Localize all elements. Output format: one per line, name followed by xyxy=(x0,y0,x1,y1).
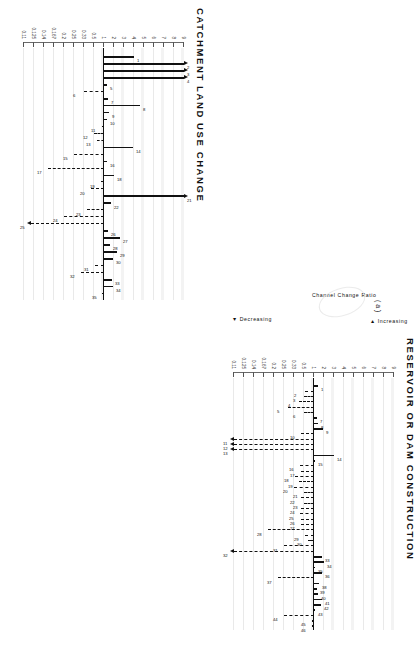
bar-9 xyxy=(314,428,323,430)
bar-10 xyxy=(104,119,107,121)
gridline xyxy=(253,378,254,630)
gridline xyxy=(141,48,144,300)
arrowhead-13 xyxy=(230,447,234,451)
bar-1 xyxy=(104,56,134,58)
axis-tick-label: 6 xyxy=(361,338,366,369)
axis-tick xyxy=(83,42,84,47)
axis-tick-label: 7 xyxy=(371,338,376,369)
axis-tick xyxy=(73,42,74,47)
bar-label-33: 33 xyxy=(115,282,120,286)
bar-41 xyxy=(314,599,322,601)
axis-tick xyxy=(343,372,344,377)
axis-tick xyxy=(63,42,64,47)
bar-14 xyxy=(314,455,334,457)
axis-tick xyxy=(133,42,134,47)
bar-26 xyxy=(301,519,314,520)
bar-44 xyxy=(284,615,314,616)
axis-tick-label: 0.33 xyxy=(81,8,86,39)
axis-tick-label: 8 xyxy=(381,338,386,369)
axis-tick xyxy=(23,42,24,47)
axis-tick xyxy=(313,372,314,377)
gridline xyxy=(343,378,344,630)
bar-13 xyxy=(234,449,314,450)
bar-2 xyxy=(305,391,314,392)
bar-label-18: 18 xyxy=(284,479,289,483)
axis-tick xyxy=(363,372,364,377)
bar-12 xyxy=(94,133,104,134)
bar-25 xyxy=(31,223,104,224)
value-axis xyxy=(24,42,184,43)
axis-tick xyxy=(123,42,124,47)
axis-tick-label: 0.11 xyxy=(231,338,236,369)
bar-label-44: 44 xyxy=(273,618,278,622)
axis-tick xyxy=(233,372,234,377)
bar-label-32: 32 xyxy=(70,275,75,279)
gridline xyxy=(121,48,124,300)
axis-tick-label: 0.167 xyxy=(261,338,266,369)
gridline xyxy=(73,48,74,300)
bar-18 xyxy=(104,175,114,177)
axis-tick xyxy=(373,372,374,377)
bar-13 xyxy=(97,140,104,141)
bar-43 xyxy=(314,609,316,611)
bar-15 xyxy=(314,460,316,462)
axis-tick xyxy=(273,372,274,377)
gridline xyxy=(233,378,234,630)
bar-label-9: 9 xyxy=(326,431,328,435)
axis-tick-label: 0.33 xyxy=(291,338,296,369)
arrowhead-21 xyxy=(184,194,188,198)
bar-5 xyxy=(104,84,107,86)
axis-tick-label: 3 xyxy=(121,8,126,39)
axis-tick-label: 0.125 xyxy=(31,8,36,39)
bar-32 xyxy=(234,551,314,552)
axis-tick xyxy=(143,42,144,47)
axis-tick-label: 0.25 xyxy=(281,338,286,369)
bar-19 xyxy=(101,181,104,182)
bar-38 xyxy=(314,583,319,585)
bar-3 xyxy=(304,396,314,397)
bar-22 xyxy=(301,497,314,498)
gridline xyxy=(303,378,304,630)
axis-caption-increasing: ▲ Increasing xyxy=(370,318,408,324)
bar-label-7: 7 xyxy=(320,420,322,424)
axis-tick xyxy=(153,42,154,47)
bar-label-16: 16 xyxy=(110,164,115,168)
axis-tick-label: 9 xyxy=(181,8,186,39)
bar-label-39: 39 xyxy=(320,591,325,595)
bar-20 xyxy=(91,188,104,189)
bar-label-15: 15 xyxy=(63,157,68,161)
axis-tick xyxy=(323,372,324,377)
bar-10 xyxy=(301,433,314,434)
axis-tick-label: 8 xyxy=(171,8,176,39)
bar-label-37: 37 xyxy=(267,581,272,585)
bar-28 xyxy=(104,244,110,246)
arrowhead-32 xyxy=(230,549,234,553)
axis-tick xyxy=(163,42,164,47)
axis-tick-label: 9 xyxy=(391,338,396,369)
axis-tick xyxy=(93,42,94,47)
bar-17 xyxy=(48,168,104,169)
bar-29 xyxy=(104,251,117,253)
bar-7 xyxy=(314,417,317,419)
bar-label-9: 9 xyxy=(112,115,114,119)
bar-40 xyxy=(314,593,318,595)
panel-catchment-land-use-change: CATCHMENT LAND USE CHANGE9876543210.50.3… xyxy=(5,8,210,308)
bar-label-24: 24 xyxy=(290,511,295,515)
bar-1 xyxy=(314,385,318,387)
bar-6 xyxy=(84,91,104,92)
bar-label-20: 20 xyxy=(80,192,85,196)
gridline xyxy=(351,378,354,630)
bar-31 xyxy=(95,265,104,266)
gridline xyxy=(283,378,284,630)
axis-tick-label: 2 xyxy=(111,8,116,39)
bar-label-33: 33 xyxy=(325,559,330,563)
gridline xyxy=(243,378,244,630)
bar-33 xyxy=(104,279,112,281)
gridline xyxy=(33,48,34,300)
bar-27 xyxy=(104,237,120,239)
axis-tick-label: 1 xyxy=(311,338,316,369)
bar-label-34: 34 xyxy=(327,565,332,569)
bar-label-25: 25 xyxy=(20,226,25,230)
gridline xyxy=(173,48,174,300)
axis-tick-label: 6 xyxy=(151,8,156,39)
